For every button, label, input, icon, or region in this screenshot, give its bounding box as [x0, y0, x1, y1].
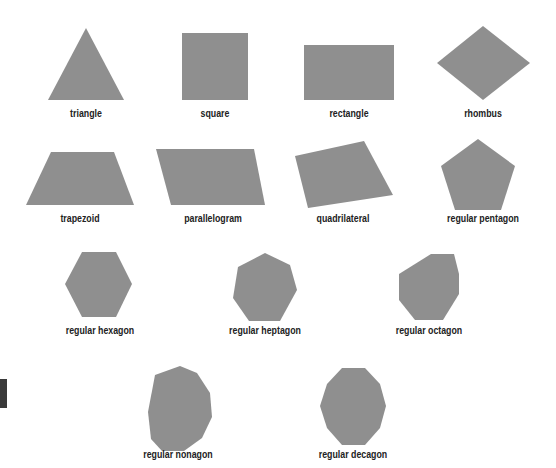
- parallelogram-shape: [156, 149, 265, 205]
- regular-nonagon-shape: [148, 366, 212, 451]
- label-regular-pentagon: regular pentagon: [447, 213, 519, 224]
- label-trapezoid: trapezoid: [60, 213, 99, 224]
- square-shape: [182, 33, 248, 100]
- label-rhombus: rhombus: [464, 108, 502, 119]
- regular-decagon-shape: [320, 368, 386, 445]
- label-parallelogram: parallelogram: [184, 213, 242, 224]
- label-regular-nonagon: regular nonagon: [143, 449, 212, 460]
- trapezoid-shape: [26, 152, 134, 205]
- label-rectangle: rectangle: [329, 108, 368, 119]
- quadrilateral-shape: [295, 141, 393, 208]
- label-triangle: triangle: [70, 108, 102, 119]
- label-regular-decagon: regular decagon: [319, 449, 387, 460]
- label-regular-hexagon: regular hexagon: [66, 325, 134, 336]
- rhombus-shape: [437, 26, 530, 100]
- label-quadrilateral: quadrilateral: [317, 213, 370, 224]
- shapes-canvas: [0, 0, 556, 468]
- label-regular-heptagon: regular heptagon: [229, 325, 301, 336]
- regular-hexagon-shape: [65, 252, 132, 317]
- regular-octagon-shape: [399, 254, 459, 320]
- label-regular-octagon: regular octagon: [396, 325, 463, 336]
- label-square: square: [201, 108, 230, 119]
- regular-heptagon-shape: [233, 253, 297, 321]
- rectangle-shape: [304, 45, 394, 100]
- regular-pentagon-shape: [441, 139, 515, 210]
- triangle-shape: [48, 28, 124, 100]
